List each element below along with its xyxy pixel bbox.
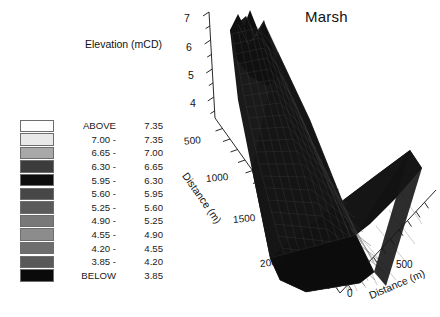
legend-range-high: 4.20 — [129, 256, 163, 267]
legend-range-low: 5.95 - — [60, 175, 116, 186]
legend-swatch — [20, 269, 54, 281]
legend-row: 6.30 - 6.65 — [20, 160, 163, 174]
legend-range-low: 4.90 - — [60, 215, 116, 226]
legend-range-high: 7.35 — [129, 120, 163, 131]
legend-swatch — [20, 133, 54, 145]
elevation-legend: ABOVE 7.35 7.00 - 7.35 6.65 - 7.00 6.30 … — [20, 119, 163, 282]
legend-range-low: 5.60 - — [60, 188, 116, 199]
legend-range-high: 5.60 — [129, 202, 163, 213]
left-axis-tick-label: 1000 — [206, 171, 229, 184]
legend-range-low: 5.25 - — [60, 202, 116, 213]
legend-swatch — [20, 147, 54, 159]
left-axis-tick-label: 2000 — [260, 256, 283, 269]
legend-swatch — [20, 215, 54, 227]
legend-row: 5.25 - 5.60 — [20, 201, 163, 215]
legend-swatch — [20, 242, 54, 254]
legend-swatch — [20, 174, 54, 186]
legend-range-high: 7.35 — [129, 134, 163, 145]
left-axis-tick-label: 1500 — [233, 212, 256, 225]
left-axis-tick-label: 500 — [184, 134, 202, 146]
legend-row: 3.85 - 4.20 — [20, 255, 163, 269]
figure-canvas: Marsh Elevation (mCD) ABOVE 7.35 7.00 - … — [0, 0, 440, 317]
legend-range-low: 4.55 - — [60, 229, 116, 240]
legend-range-high: 4.90 — [129, 229, 163, 240]
surface-mesh — [230, 10, 422, 292]
legend-range-high: 6.30 — [129, 175, 163, 186]
legend-range-low: BELOW — [60, 270, 116, 281]
z-tick-label: 5 — [188, 69, 194, 81]
legend-swatch — [20, 120, 54, 132]
legend-range-low: 3.85 - — [60, 256, 116, 267]
z-tick-label: 7 — [184, 12, 190, 24]
legend-row: 5.95 - 6.30 — [20, 173, 163, 187]
legend-swatch — [20, 228, 54, 240]
right-axis-tick-label: 0 — [347, 288, 353, 299]
legend-range-high: 4.55 — [129, 243, 163, 254]
legend-range-low: 4.20 - — [60, 243, 116, 254]
legend-range-low: 7.00 - — [60, 134, 116, 145]
legend-range-high: 5.25 — [129, 215, 163, 226]
legend-range-low: 6.30 - — [60, 161, 116, 172]
legend-row: 4.20 - 4.55 — [20, 241, 163, 255]
right-axis-tick-label: 500 — [396, 259, 413, 270]
elevation-axis-label: Elevation (mCD) — [85, 38, 162, 50]
legend-swatch — [20, 201, 54, 213]
legend-row: 4.90 - 5.25 — [20, 214, 163, 228]
legend-swatch — [20, 256, 54, 268]
legend-swatch — [20, 160, 54, 172]
legend-row: 7.00 - 7.35 — [20, 133, 163, 147]
z-axis — [203, 12, 215, 118]
surface-plot: 7 6 5 4 500 1000 1500 2000 Distance (m) … — [160, 0, 440, 317]
legend-range-high: 7.00 — [129, 147, 163, 158]
legend-range-low: ABOVE — [60, 120, 116, 131]
z-tick-label: 6 — [186, 41, 192, 53]
legend-range-high: 6.65 — [129, 161, 163, 172]
legend-row: BELOW 3.85 — [20, 269, 163, 283]
legend-row: ABOVE 7.35 — [20, 119, 163, 133]
legend-range-high: 3.85 — [129, 270, 163, 281]
legend-row: 5.60 - 5.95 — [20, 187, 163, 201]
legend-row: 6.65 - 7.00 — [20, 146, 163, 160]
legend-swatch — [20, 188, 54, 200]
legend-range-high: 5.95 — [129, 188, 163, 199]
z-tick-label: 4 — [190, 97, 196, 109]
legend-range-low: 6.65 - — [60, 147, 116, 158]
legend-row: 4.55 - 4.90 — [20, 228, 163, 242]
